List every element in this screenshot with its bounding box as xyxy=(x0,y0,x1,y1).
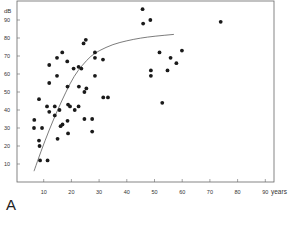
data-point xyxy=(66,132,70,136)
data-point xyxy=(219,20,223,24)
x-tick-label: 50 xyxy=(151,189,157,195)
data-point xyxy=(160,101,164,105)
data-point xyxy=(32,118,36,122)
data-point xyxy=(148,18,152,22)
data-point xyxy=(73,108,77,112)
x-axis-label: years xyxy=(271,188,288,196)
data-point xyxy=(32,126,36,130)
y-tick-label: 90 xyxy=(4,17,10,23)
data-point xyxy=(61,123,65,127)
data-point xyxy=(83,117,87,121)
data-point xyxy=(53,114,57,118)
y-tick-label: 30 xyxy=(4,125,10,131)
plot-frame xyxy=(17,1,274,182)
data-point xyxy=(58,108,62,112)
data-point xyxy=(37,97,41,101)
y-tick-label: 40 xyxy=(4,107,10,113)
data-point xyxy=(82,42,86,46)
data-point xyxy=(38,144,42,148)
data-point xyxy=(90,130,94,134)
x-tick-label: 80 xyxy=(235,189,241,195)
data-point xyxy=(77,105,81,109)
data-point xyxy=(55,74,59,78)
x-tick-label: 40 xyxy=(124,189,130,195)
data-point xyxy=(45,105,49,109)
data-point xyxy=(46,159,50,163)
data-point xyxy=(53,105,57,109)
x-tick-label: 60 xyxy=(179,189,185,195)
data-point xyxy=(101,96,105,100)
data-point xyxy=(166,69,170,73)
x-tick-label: 90 xyxy=(262,189,268,195)
data-point xyxy=(66,85,70,89)
y-tick-label: 80 xyxy=(4,35,10,41)
data-point xyxy=(90,117,94,121)
data-point xyxy=(141,7,145,11)
data-point xyxy=(65,60,69,64)
y-tick-label: 50 xyxy=(4,89,10,95)
panel-label: A xyxy=(6,196,16,213)
scatter-chart: 102030405060708090 102030405060708090 dB… xyxy=(0,0,291,231)
y-tick-label: 20 xyxy=(4,143,10,149)
x-axis: 102030405060708090 xyxy=(41,179,269,195)
x-tick-label: 70 xyxy=(207,189,213,195)
data-point xyxy=(84,87,88,91)
data-point xyxy=(93,51,97,55)
data-point xyxy=(93,56,97,60)
data-point xyxy=(47,81,51,85)
y-tick-label: 70 xyxy=(4,53,10,59)
data-point xyxy=(40,126,44,130)
data-point xyxy=(47,63,51,67)
x-tick-label: 20 xyxy=(68,189,74,195)
data-point xyxy=(68,105,72,109)
data-point xyxy=(60,51,64,55)
x-tick-label: 30 xyxy=(96,189,102,195)
data-point xyxy=(83,90,87,94)
data-point xyxy=(93,74,97,78)
data-point xyxy=(72,67,76,71)
y-axis-label: dB xyxy=(4,8,11,14)
x-tick-label: 10 xyxy=(41,189,47,195)
data-point xyxy=(55,56,59,60)
y-tick-label: 10 xyxy=(4,161,10,167)
data-point xyxy=(56,137,60,141)
data-point xyxy=(47,110,51,114)
data-point xyxy=(101,58,105,62)
data-point xyxy=(84,38,88,42)
data-point xyxy=(79,67,83,71)
data-point xyxy=(77,85,81,89)
data-point xyxy=(37,139,41,143)
data-point xyxy=(106,96,110,100)
data-point xyxy=(180,49,184,53)
data-point xyxy=(149,74,153,78)
data-points xyxy=(32,7,222,162)
data-point xyxy=(66,119,70,123)
data-point xyxy=(174,61,178,65)
data-point xyxy=(158,51,162,55)
data-point xyxy=(141,22,145,26)
data-point xyxy=(38,159,42,163)
data-point xyxy=(169,56,173,60)
y-tick-label: 60 xyxy=(4,71,10,77)
data-point xyxy=(149,69,153,73)
fitted-curve xyxy=(34,34,174,171)
y-axis: 102030405060708090 xyxy=(4,17,20,167)
